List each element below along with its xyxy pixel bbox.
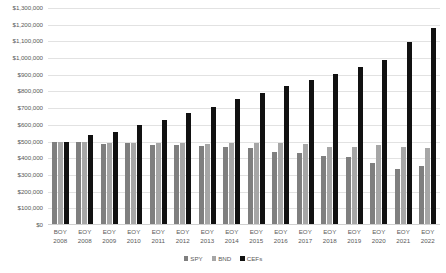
y-axis-tick-label: $500,000: [18, 139, 43, 145]
x-label-line2: 2015: [244, 237, 269, 246]
bar-cefs: [211, 107, 216, 225]
bar-spy: [52, 142, 57, 225]
x-axis-tick-label: EOY2019: [342, 228, 367, 250]
x-axis-tick-label: BOY2008: [48, 228, 73, 250]
x-axis-tick-label: EOY2012: [171, 228, 196, 250]
x-label-line2: 2014: [220, 237, 245, 246]
x-label-line2: 2019: [342, 237, 367, 246]
bar-cefs: [260, 93, 265, 225]
x-label-line2: 2008: [73, 237, 98, 246]
legend-swatch-icon: [212, 256, 217, 261]
x-axis: BOY2008EOY2008EOY2009EOY2010EOY2011EOY20…: [48, 228, 440, 250]
bar-bnd: [254, 143, 259, 225]
y-axis-tick-label: $100,000: [18, 205, 43, 211]
bar-bnd: [107, 143, 112, 225]
axis-baseline: [48, 224, 440, 225]
bar-spy: [370, 163, 375, 225]
x-label-line1: EOY: [416, 228, 441, 237]
bar-cefs: [137, 125, 142, 225]
y-axis-tick-label: $300,000: [18, 172, 43, 178]
x-label-line1: EOY: [391, 228, 416, 237]
x-axis-tick-label: EOY2008: [73, 228, 98, 250]
legend-item-cefs[interactable]: CEFs: [240, 255, 262, 262]
bar-cefs: [407, 42, 412, 225]
y-axis-tick-label: $1,000,000: [13, 55, 43, 61]
legend-item-spy[interactable]: SPY: [184, 255, 203, 262]
bar-cefs: [88, 135, 93, 225]
bar-cefs: [382, 60, 387, 225]
bar-spy: [150, 145, 155, 225]
x-label-line1: EOY: [244, 228, 269, 237]
x-label-line2: 2008: [48, 237, 73, 246]
bar-group: [97, 8, 122, 225]
x-label-line2: 2012: [171, 237, 196, 246]
x-label-line1: EOY: [122, 228, 147, 237]
chart-container: $1,300,000$1,200,000$1,100,000$1,000,000…: [0, 0, 446, 273]
x-label-line1: EOY: [293, 228, 318, 237]
y-axis-tick-label: $1,300,000: [13, 5, 43, 11]
bar-spy: [297, 153, 302, 225]
y-axis-tick-label: $900,000: [18, 72, 43, 78]
x-label-line2: 2021: [391, 237, 416, 246]
x-label-line2: 2013: [195, 237, 220, 246]
bar-group: [73, 8, 98, 225]
bar-bnd: [352, 147, 357, 225]
bar-bnd: [401, 147, 406, 225]
bar-spy: [395, 169, 400, 225]
x-axis-tick-label: EOY2018: [318, 228, 343, 250]
bar-group: [122, 8, 147, 225]
x-label-line1: EOY: [342, 228, 367, 237]
bar-group: [146, 8, 171, 225]
x-axis-tick-label: EOY2016: [269, 228, 294, 250]
legend-item-bnd[interactable]: BND: [212, 255, 232, 262]
bar-bnd: [425, 148, 430, 225]
y-axis-tick-label: $200,000: [18, 189, 43, 195]
bar-cefs: [113, 132, 118, 225]
x-label-line2: 2010: [122, 237, 147, 246]
bar-cefs: [333, 74, 338, 225]
bar-group: [171, 8, 196, 225]
x-axis-tick-label: EOY2022: [416, 228, 441, 250]
x-label-line1: BOY: [48, 228, 73, 237]
bar-group: [342, 8, 367, 225]
x-label-line1: EOY: [146, 228, 171, 237]
plot-area: [48, 8, 440, 225]
bar-spy: [76, 142, 81, 225]
x-label-line2: 2022: [416, 237, 441, 246]
legend-swatch-icon: [240, 256, 245, 261]
bar-cefs: [358, 67, 363, 225]
bar-group: [391, 8, 416, 225]
x-axis-tick-label: EOY2014: [220, 228, 245, 250]
x-label-line1: EOY: [269, 228, 294, 237]
x-axis-tick-label: EOY2017: [293, 228, 318, 250]
bar-bnd: [303, 144, 308, 225]
bar-bnd: [327, 147, 332, 225]
y-axis-tick-label: $800,000: [18, 88, 43, 94]
bar-bnd: [82, 142, 87, 225]
bar-spy: [346, 157, 351, 225]
bar-cefs: [284, 86, 289, 225]
bar-spy: [174, 145, 179, 225]
bar-bnd: [376, 145, 381, 225]
bar-group: [220, 8, 245, 225]
bar-group: [416, 8, 441, 225]
bar-cefs: [162, 120, 167, 225]
bar-spy: [125, 143, 130, 225]
x-label-line1: EOY: [220, 228, 245, 237]
y-axis-tick-label: $0: [36, 222, 43, 228]
bar-spy: [223, 147, 228, 225]
bar-cefs: [235, 99, 240, 225]
x-label-line1: EOY: [195, 228, 220, 237]
bar-group: [367, 8, 392, 225]
x-label-line1: EOY: [171, 228, 196, 237]
legend-label: SPY: [190, 255, 202, 262]
bar-bnd: [205, 144, 210, 225]
x-axis-tick-label: EOY2015: [244, 228, 269, 250]
x-label-line2: 2018: [318, 237, 343, 246]
x-axis-tick-label: EOY2020: [367, 228, 392, 250]
bar-cefs: [64, 142, 69, 225]
bar-spy: [419, 166, 424, 225]
x-axis-tick-label: EOY2011: [146, 228, 171, 250]
legend-label: BND: [218, 255, 231, 262]
x-axis-tick-label: EOY2013: [195, 228, 220, 250]
